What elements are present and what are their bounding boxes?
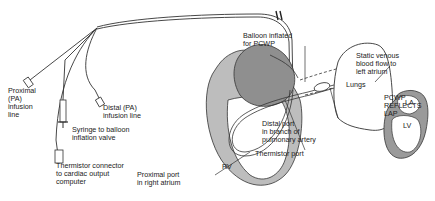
label-balloon: Balloon inflated for PCWP [243,32,292,48]
balloon [313,81,331,93]
syringe [60,100,66,122]
label-distal-pa-line: Distal (PA) infusion line [103,104,141,120]
label-syringe: Syringe to balloon inflation valve [72,126,130,142]
label-pcwp-reflects: PCWP REFLECTS LAP [384,94,422,118]
right-heart [206,44,302,185]
label-proximal-pa-line: Proximal (PA) infusion line [8,87,36,119]
label-static-flow: Static venous blood flow to left atrium [356,52,399,76]
label-proximal-port: Proximal port in right atrium [137,171,181,187]
label-lungs: Lungs [346,81,366,89]
label-thermistor-port: Thermistor port [255,150,304,158]
label-lv: LV [403,122,411,130]
label-distal-port: Distal port in branch of pulmonary arter… [262,120,316,144]
label-thermistor-connector: Thermistor connector to cardiac output c… [56,162,124,186]
label-rv: RV [222,163,232,171]
